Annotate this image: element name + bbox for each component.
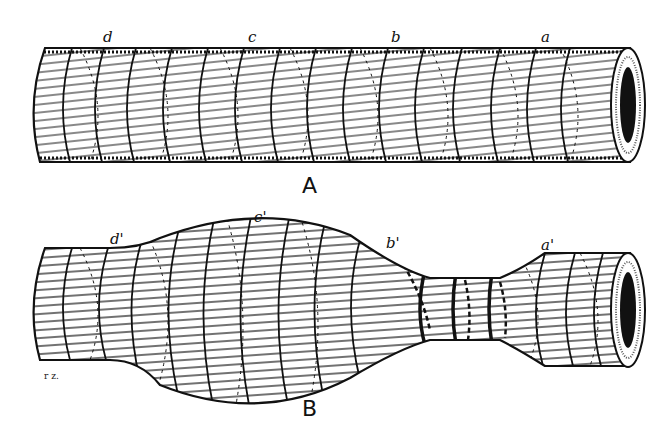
marker-c: c <box>248 30 256 45</box>
figure-canvas <box>0 0 662 430</box>
artist-signature: r z. <box>44 372 59 381</box>
marker-b: b <box>391 30 401 45</box>
marker-b-prime: b' <box>386 236 400 251</box>
panel-caption-a: A <box>302 175 317 197</box>
marker-a: a <box>541 30 550 45</box>
marker-c-prime: c' <box>254 210 267 225</box>
marker-d: d <box>103 30 113 45</box>
marker-d-prime: d' <box>110 232 124 247</box>
panel-caption-b: B <box>302 398 317 420</box>
marker-a-prime: a' <box>541 238 554 253</box>
tube-a <box>34 48 645 162</box>
